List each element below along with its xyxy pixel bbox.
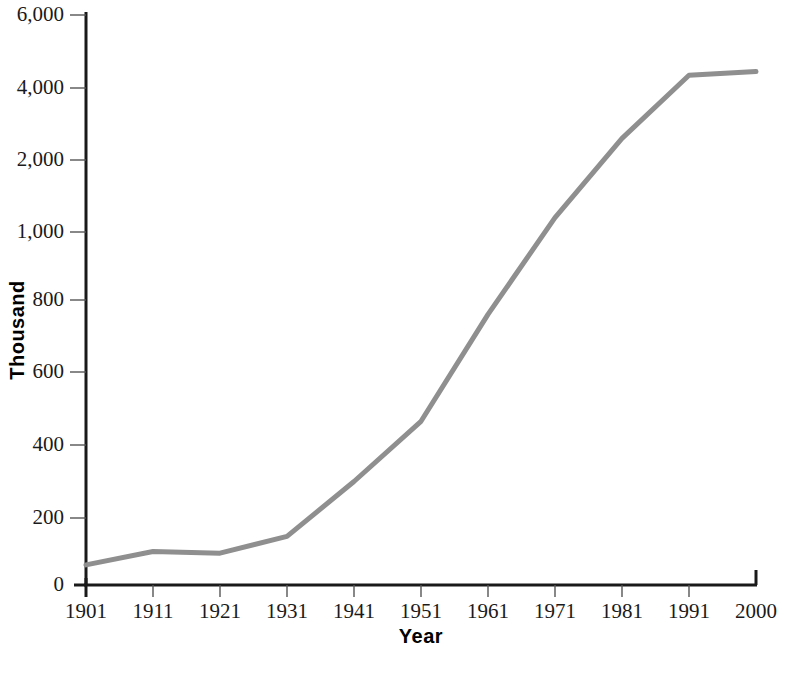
y-tick-label: 400 [33, 432, 65, 456]
y-tick-label: 0 [54, 572, 65, 596]
x-tick-label: 1901 [65, 599, 107, 623]
x-tick-label: 1931 [266, 599, 308, 623]
x-tick-label: 1941 [333, 599, 375, 623]
y-tick-label: 800 [33, 287, 65, 311]
x-tick-label: 1991 [668, 599, 710, 623]
x-tick-label: 1981 [601, 599, 643, 623]
y-tick-label: 600 [33, 359, 65, 383]
line-chart: Thousand Year 02004006008001,0002,0004,0… [0, 0, 801, 690]
chart-container: Thousand Year 02004006008001,0002,0004,0… [0, 0, 801, 690]
y-axis-title: Thousand [6, 280, 28, 380]
x-tick-label: 2000 [735, 599, 777, 623]
x-tick-label: 1971 [534, 599, 576, 623]
y-tick-label: 6,000 [17, 2, 64, 26]
x-tick-label: 1911 [132, 599, 173, 623]
y-tick-label: 4,000 [17, 75, 64, 99]
y-tick-label: 1,000 [17, 219, 64, 243]
x-tick-label: 1951 [400, 599, 442, 623]
y-tick-label: 2,000 [17, 147, 64, 171]
x-tick-label: 1921 [199, 599, 241, 623]
x-tick-label: 1961 [467, 599, 509, 623]
x-axis-title: Year [399, 625, 443, 647]
y-tick-label: 200 [33, 505, 65, 529]
data-series-line [86, 72, 756, 565]
